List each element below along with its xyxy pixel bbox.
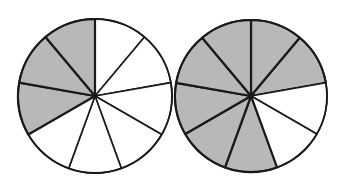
left-circle (18, 19, 172, 173)
center-point (93, 94, 97, 98)
center-point (249, 94, 253, 98)
fraction-diagram (0, 0, 339, 182)
right-circle (175, 20, 327, 172)
